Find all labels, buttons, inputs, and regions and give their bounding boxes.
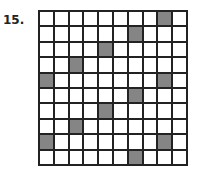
grid-cell	[128, 73, 143, 88]
grid-cell-shaded	[69, 57, 84, 72]
grid-cell	[128, 57, 143, 72]
grid-cell	[172, 134, 187, 149]
grid-cell	[113, 57, 128, 72]
grid-cell	[113, 119, 128, 134]
grid-cell	[128, 134, 143, 149]
problem-number: 15.	[3, 13, 24, 27]
grid-cell	[69, 150, 84, 165]
grid-cell	[83, 57, 98, 72]
grid-cell	[98, 88, 113, 103]
grid-cell	[83, 88, 98, 103]
grid-cell-shaded	[157, 134, 172, 149]
grid-cell	[128, 103, 143, 118]
grid-cell	[83, 150, 98, 165]
grid-cell	[157, 88, 172, 103]
grid-cell-shaded	[98, 103, 113, 118]
grid-cell	[128, 119, 143, 134]
grid-cell	[83, 42, 98, 57]
grid-cell	[69, 11, 84, 26]
grid-cell	[143, 42, 158, 57]
grid-cell	[157, 57, 172, 72]
grid-cell	[69, 88, 84, 103]
grid-cell-shaded	[39, 134, 54, 149]
grid-cell-shaded	[157, 11, 172, 26]
grid-cell	[69, 42, 84, 57]
grid-cell	[69, 103, 84, 118]
grid-cell	[113, 103, 128, 118]
grid-cell	[128, 11, 143, 26]
grid-cell	[39, 88, 54, 103]
grid-cell	[54, 73, 69, 88]
grid-cell	[54, 57, 69, 72]
grid-cell	[83, 134, 98, 149]
grid-cell	[98, 57, 113, 72]
grid-cell	[69, 134, 84, 149]
grid-cell	[98, 11, 113, 26]
grid-cell	[98, 150, 113, 165]
grid-cell	[39, 57, 54, 72]
grid-cell	[54, 88, 69, 103]
grid-cell	[172, 26, 187, 41]
grid-cell	[54, 134, 69, 149]
grid-cell	[113, 26, 128, 41]
grid-cell	[172, 88, 187, 103]
grid-cell	[83, 11, 98, 26]
grid-cell	[143, 119, 158, 134]
grid-cell	[113, 11, 128, 26]
grid-cell	[39, 103, 54, 118]
grid-cell	[113, 150, 128, 165]
grid-cell	[157, 42, 172, 57]
grid-cell-shaded	[128, 88, 143, 103]
grid-cell	[157, 150, 172, 165]
grid-cell	[98, 26, 113, 41]
grid-cell	[172, 119, 187, 134]
grid-cell-shaded	[69, 119, 84, 134]
grid-cell	[83, 103, 98, 118]
grid-cell	[39, 11, 54, 26]
grid-cell	[98, 73, 113, 88]
pattern-grid	[38, 10, 188, 166]
grid-cell	[54, 11, 69, 26]
grid-cell	[143, 11, 158, 26]
grid-cell-shaded	[128, 26, 143, 41]
grid-cell	[143, 134, 158, 149]
grid-cell	[83, 119, 98, 134]
grid-cell-shaded	[98, 42, 113, 57]
grid-cell	[143, 88, 158, 103]
grid-cell	[157, 103, 172, 118]
grid-cell	[113, 88, 128, 103]
grid-cell	[172, 42, 187, 57]
grid-cell	[113, 42, 128, 57]
grid-cell	[128, 42, 143, 57]
grid-cell	[39, 119, 54, 134]
grid-cell	[143, 103, 158, 118]
grid-cell	[172, 57, 187, 72]
grid-cell	[39, 42, 54, 57]
grid-cell	[172, 150, 187, 165]
grid-cell	[39, 26, 54, 41]
grid-cell	[157, 119, 172, 134]
grid-cell	[113, 134, 128, 149]
grid-cell	[54, 26, 69, 41]
grid-cell	[83, 73, 98, 88]
grid-cell	[143, 26, 158, 41]
grid-cell-shaded	[157, 73, 172, 88]
grid-cell	[172, 11, 187, 26]
grid-cell	[157, 26, 172, 41]
grid-cell	[54, 42, 69, 57]
grid-cell	[54, 150, 69, 165]
grid-cell	[143, 57, 158, 72]
grid-cell	[143, 73, 158, 88]
grid-cell	[98, 119, 113, 134]
grid-cell	[83, 26, 98, 41]
grid-cell	[69, 73, 84, 88]
grid-cell	[172, 103, 187, 118]
grid-cell	[69, 26, 84, 41]
grid-cell	[39, 150, 54, 165]
grid-cell-shaded	[128, 150, 143, 165]
grid-cell	[54, 119, 69, 134]
grid-cell-shaded	[39, 73, 54, 88]
grid-cell	[143, 150, 158, 165]
grid-cell	[113, 73, 128, 88]
grid-cell	[54, 103, 69, 118]
